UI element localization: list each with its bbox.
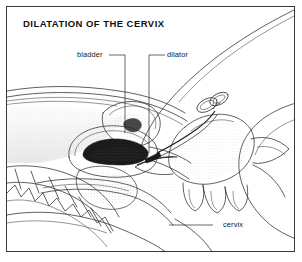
- label-bladder: bladder: [77, 51, 103, 59]
- label-cervix: cervix: [223, 221, 243, 229]
- figure-frame: DILATATION OF THE CERVIX bladder dilator…: [6, 6, 295, 252]
- hand-shading: [172, 120, 249, 180]
- perineum-group: [7, 212, 213, 252]
- figure-title: DILATATION OF THE CERVIX: [23, 18, 165, 29]
- label-dilator: dilator: [167, 51, 188, 59]
- sacrum-coccyx-group: [7, 166, 137, 247]
- illustration-canvas: [7, 7, 295, 252]
- illustration-figure: DILATATION OF THE CERVIX bladder dilator…: [0, 0, 302, 262]
